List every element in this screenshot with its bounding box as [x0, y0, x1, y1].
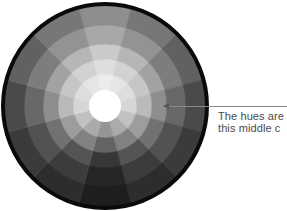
- wheel-cell: [89, 44, 121, 61]
- callout-text: The hues are this middle c: [218, 111, 287, 134]
- wheel-cell: [58, 94, 75, 119]
- callout-line-1: The hues are: [218, 111, 287, 123]
- arrow-left-icon: [163, 103, 169, 109]
- wheel-cell: [93, 59, 118, 76]
- wheel-cell: [4, 80, 27, 133]
- wheel-cell: [93, 137, 118, 154]
- wheel-cell: [23, 85, 45, 127]
- wheel-center-white: [89, 90, 121, 122]
- wheel-cell: [84, 166, 126, 188]
- wheel-cell: [79, 5, 132, 28]
- wheel-cell: [84, 25, 126, 47]
- wheel-cell: [136, 94, 153, 119]
- callout-line: [166, 106, 287, 107]
- wheel-cell: [89, 151, 121, 168]
- wheel-cell: [79, 184, 132, 207]
- callout-line-2: this middle c: [218, 123, 287, 135]
- wheel-cell: [43, 90, 60, 122]
